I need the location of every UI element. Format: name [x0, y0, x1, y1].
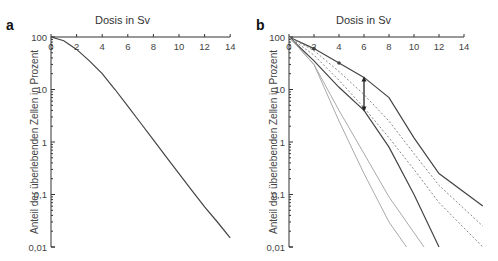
data-point-marker — [312, 47, 316, 51]
y-tick-label: 1 — [42, 137, 47, 148]
x-tick-label: 14 — [225, 41, 236, 52]
y-tick-label: 10 — [36, 84, 47, 95]
x-tick-label: 12 — [199, 41, 210, 52]
panel-letter-a: a — [6, 17, 14, 33]
data-point-marker — [337, 61, 341, 65]
panel-b: b Dosis in Sv Anteil der überlebenden Ze… — [256, 14, 483, 253]
curve-solid-dark — [289, 37, 483, 206]
y-tick-label: 100 — [269, 32, 285, 43]
x-tick-label: 10 — [409, 41, 420, 52]
y-tick-label: 10 — [274, 84, 285, 95]
x-tick-label: 14 — [459, 41, 470, 52]
y-axis-title-b: Anteil der überlebenden Zellen in Prozen… — [268, 50, 279, 234]
curves-b — [289, 37, 483, 247]
x-tick-label: 12 — [434, 41, 445, 52]
y-tick-label: 1 — [280, 137, 285, 148]
x-axis-title-b: Dosis in Sv — [336, 14, 392, 26]
y-tick-label: 100 — [31, 32, 47, 43]
curve-solid-light — [289, 37, 424, 247]
y-tick-label: 0,1 — [34, 189, 47, 200]
axes-b: 024681012141001010,10,01 — [267, 32, 470, 253]
x-tick-label: 8 — [386, 41, 391, 52]
y-axis-title-a: Anteil der überlebenden Zellen in Prozen… — [29, 50, 40, 234]
curves-a — [51, 37, 230, 238]
x-tick-label: 4 — [100, 41, 105, 52]
y-tick-label: 0,1 — [272, 189, 285, 200]
y-tick-label: 0,01 — [267, 242, 286, 253]
panel-letter-b: b — [256, 17, 265, 33]
x-tick-label: 8 — [151, 41, 156, 52]
x-axis-title-a: Dosis in Sv — [95, 14, 151, 26]
x-tick-label: 4 — [336, 41, 341, 52]
curve-solid-dark — [51, 37, 230, 238]
axes-a: 024681012141001010,10,01 — [29, 32, 236, 253]
x-tick-label: 10 — [174, 41, 185, 52]
survival-curves-figure: a Dosis in Sv Anteil der überlebenden Ze… — [0, 0, 498, 261]
x-tick-label: 6 — [361, 41, 366, 52]
y-tick-label: 0,01 — [29, 242, 48, 253]
x-tick-label: 6 — [125, 41, 130, 52]
panel-a: a Dosis in Sv Anteil der überlebenden Ze… — [6, 14, 235, 253]
